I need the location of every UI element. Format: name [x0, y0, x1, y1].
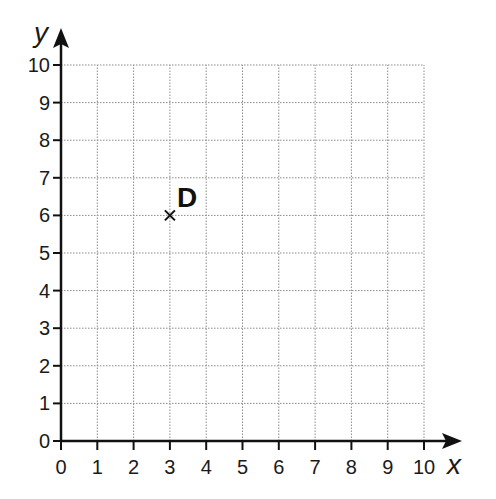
axis-ticks — [53, 65, 424, 450]
y-tick-label: 10 — [28, 54, 50, 76]
x-tick-label: 8 — [346, 456, 357, 478]
y-tick-label: 1 — [39, 392, 50, 414]
y-tick-label: 0 — [39, 430, 50, 452]
tick-labels: 012345678910012345678910 — [28, 54, 435, 478]
y-tick-label: 8 — [39, 129, 50, 151]
y-tick-label: 9 — [39, 92, 50, 114]
coordinate-grid-chart: 012345678910012345678910 x y D — [0, 0, 496, 499]
y-axis-title: y — [32, 17, 50, 48]
y-tick-label: 6 — [39, 204, 50, 226]
grid-lines — [61, 65, 424, 441]
x-tick-label: 10 — [413, 456, 435, 478]
x-tick-label: 9 — [382, 456, 393, 478]
x-tick-label: 0 — [55, 456, 66, 478]
axes — [53, 28, 462, 449]
x-tick-label: 6 — [273, 456, 284, 478]
x-tick-label: 4 — [201, 456, 212, 478]
x-tick-label: 3 — [164, 456, 175, 478]
x-tick-label: 2 — [128, 456, 139, 478]
y-tick-label: 5 — [39, 242, 50, 264]
x-tick-label: 7 — [310, 456, 321, 478]
y-tick-label: 2 — [39, 355, 50, 377]
x-tick-label: 1 — [92, 456, 103, 478]
point-label: D — [177, 182, 197, 213]
y-tick-label: 4 — [39, 280, 50, 302]
x-tick-label: 5 — [237, 456, 248, 478]
y-tick-label: 3 — [39, 317, 50, 339]
y-tick-label: 7 — [39, 167, 50, 189]
x-axis-title: x — [445, 449, 462, 480]
